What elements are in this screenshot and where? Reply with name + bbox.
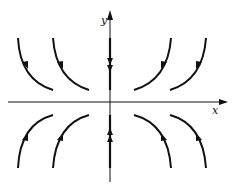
trajectory-lr-outer [170,115,206,168]
y-upper-arrow-icon [107,58,113,65]
trajectory-ul-outer [18,38,53,90]
y-upper-arrow-icon [107,65,113,72]
phase-portrait-svg [0,0,238,185]
trajectory-ll-outer [18,115,53,168]
trajectory-ur-inner [134,38,171,90]
y-axis-arrow-icon [107,10,113,20]
arrow-lr-inner-icon [161,133,167,141]
y-lower-arrow-icon [107,135,113,142]
y-lower-arrow-icon [107,128,113,135]
trajectory-ur-outer [170,38,206,90]
trajectory-ll-inner [53,115,89,168]
arrow-lr-outer-icon [196,133,202,141]
trajectory-ul-inner [53,38,89,90]
trajectory-lr-inner [134,115,171,168]
x-axis-label: x [212,104,218,117]
arrow-ll-inner-icon [57,133,63,141]
x-axis-arrow-icon [219,99,228,105]
arrow-ll-outer-icon [22,133,28,141]
y-axis-label: y [101,14,107,27]
saddle-phase-portrait: y x [0,0,238,185]
